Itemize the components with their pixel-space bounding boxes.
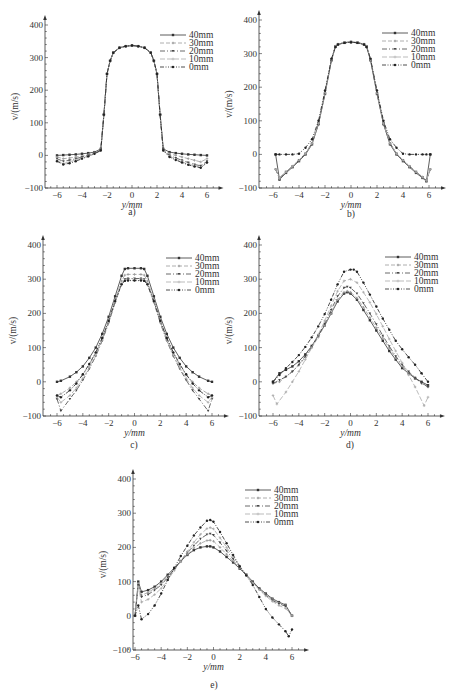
- data-marker: [207, 392, 210, 395]
- x-tick-label: −4: [77, 190, 87, 200]
- data-marker: [363, 43, 365, 45]
- data-marker: [56, 381, 58, 383]
- x-axis-arrow-icon: [440, 414, 445, 418]
- data-marker: [69, 398, 72, 400]
- data-marker: [178, 257, 180, 259]
- data-marker: [317, 120, 319, 122]
- data-marker: [272, 381, 274, 383]
- data-marker: [397, 264, 400, 267]
- data-marker: [172, 66, 174, 68]
- y-tick-label: −100: [238, 411, 257, 421]
- data-marker: [271, 616, 273, 618]
- panel-caption: e): [210, 680, 217, 691]
- series-20mm: [56, 45, 209, 168]
- data-marker: [112, 52, 114, 54]
- data-marker: [174, 154, 177, 157]
- data-marker: [180, 555, 182, 557]
- data-marker: [131, 44, 133, 46]
- x-tick-label: 2: [158, 418, 163, 428]
- data-marker: [147, 594, 150, 596]
- data-marker: [175, 159, 177, 161]
- data-marker: [56, 394, 58, 396]
- data-marker: [401, 348, 403, 350]
- x-tick-label: 2: [237, 652, 242, 662]
- y-tick-label: 300: [244, 274, 258, 284]
- y-tick-label: 0: [39, 150, 44, 160]
- data-marker: [291, 628, 293, 630]
- data-marker: [82, 365, 84, 367]
- data-marker: [172, 34, 174, 36]
- x-tick-label: −4: [156, 652, 166, 662]
- data-marker: [397, 256, 399, 258]
- data-marker: [206, 539, 209, 542]
- data-marker: [206, 161, 208, 163]
- series-line: [57, 46, 207, 156]
- data-marker: [199, 546, 201, 548]
- x-tick-label: −2: [102, 190, 112, 200]
- y-tick-label: 100: [118, 577, 132, 587]
- data-marker: [323, 313, 325, 315]
- series-10mm: [56, 279, 214, 404]
- data-marker: [120, 275, 122, 277]
- data-marker: [397, 280, 400, 283]
- data-marker: [153, 604, 155, 606]
- series-20mm: [56, 278, 214, 413]
- x-tick-label: 4: [400, 418, 405, 428]
- data-marker: [311, 336, 313, 338]
- x-tick-label: −6: [268, 190, 278, 200]
- data-marker: [181, 156, 184, 159]
- data-marker: [257, 513, 260, 516]
- data-marker: [172, 346, 174, 348]
- data-marker: [60, 410, 63, 412]
- data-marker: [343, 42, 345, 44]
- series-line: [57, 268, 212, 382]
- data-marker: [209, 526, 212, 529]
- data-marker: [87, 155, 89, 157]
- data-marker: [389, 138, 391, 140]
- data-marker: [88, 357, 90, 359]
- data-marker: [114, 295, 116, 297]
- panel-caption: c): [130, 440, 137, 451]
- data-marker: [153, 60, 155, 62]
- x-axis-arrow-icon: [219, 186, 224, 190]
- data-marker: [62, 157, 65, 160]
- data-marker: [421, 153, 423, 155]
- data-marker: [185, 373, 187, 375]
- data-marker: [143, 268, 145, 270]
- data-marker: [118, 47, 120, 49]
- data-marker: [175, 152, 177, 154]
- data-marker: [423, 404, 426, 407]
- data-marker: [150, 52, 152, 54]
- data-marker: [69, 375, 71, 377]
- data-marker: [394, 64, 396, 66]
- series-line: [273, 270, 428, 382]
- data-marker: [209, 545, 211, 547]
- data-marker: [75, 160, 77, 162]
- data-marker: [140, 273, 143, 276]
- y-tick-label: 200: [118, 542, 132, 552]
- data-marker: [337, 43, 339, 45]
- data-marker: [159, 113, 161, 115]
- series-0mm: [274, 41, 431, 156]
- data-marker: [291, 365, 293, 367]
- data-marker: [172, 58, 175, 61]
- data-marker: [185, 365, 187, 367]
- data-marker: [350, 41, 352, 43]
- series-line: [135, 520, 292, 636]
- x-tick-label: −2: [320, 190, 330, 200]
- data-marker: [375, 305, 377, 307]
- data-marker: [365, 46, 367, 48]
- data-marker: [81, 157, 83, 159]
- data-marker: [178, 265, 181, 268]
- data-marker: [211, 394, 213, 396]
- series-40mm: [134, 545, 293, 617]
- data-marker: [278, 374, 280, 376]
- x-tick-label: −2: [320, 418, 330, 428]
- data-marker: [291, 361, 293, 363]
- series-20mm: [134, 533, 294, 617]
- y-tick-label: 0: [37, 377, 42, 387]
- data-marker: [330, 57, 332, 59]
- data-marker: [178, 281, 181, 284]
- x-tick-label: 6: [426, 418, 431, 428]
- data-marker: [124, 280, 126, 282]
